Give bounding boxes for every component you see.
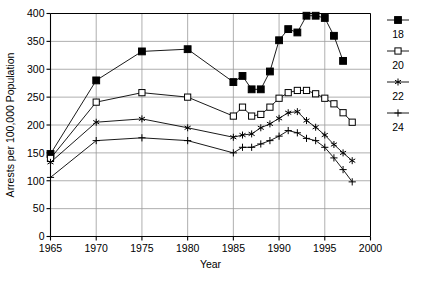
open-square-icon <box>285 90 291 96</box>
data-point-filled-square-icon <box>395 17 402 24</box>
data-point-plus-icon <box>138 134 145 141</box>
filled-square-icon <box>184 46 191 53</box>
open-square-icon <box>139 90 145 96</box>
data-point-open-square-icon <box>276 95 282 101</box>
y-tick-label: 0 <box>39 230 45 242</box>
filled-square-icon <box>139 48 146 55</box>
filled-square-icon <box>267 68 274 75</box>
data-point-plus-icon <box>349 178 356 185</box>
filled-square-icon <box>312 12 319 19</box>
data-point-filled-square-icon <box>139 48 146 55</box>
data-point-filled-square-icon <box>230 79 237 86</box>
data-point-open-square-icon <box>249 113 255 119</box>
filled-square-icon <box>294 29 301 36</box>
y-tick-label: 300 <box>27 63 45 75</box>
open-square-icon <box>349 119 355 125</box>
data-point-filled-square-icon <box>285 26 292 33</box>
data-point-open-square-icon <box>230 113 236 119</box>
y-axis-title: Arrests per 100,000 Population <box>4 52 16 197</box>
legend-item-20[interactable]: 20 <box>387 48 409 71</box>
x-tick-label: 1970 <box>85 242 109 254</box>
series-group <box>47 12 356 185</box>
open-square-icon <box>395 48 401 54</box>
legend-label: 24 <box>392 121 404 133</box>
open-square-icon <box>249 113 255 119</box>
data-point-filled-square-icon <box>340 57 347 64</box>
data-point-plus-icon <box>230 149 237 156</box>
y-tick-label: 50 <box>33 202 45 214</box>
legend-item-24[interactable]: 24 <box>387 109 409 133</box>
y-tick-label: 200 <box>27 119 45 131</box>
y-tick-label: 100 <box>27 175 45 187</box>
legend-label: 22 <box>392 90 404 102</box>
filled-square-icon <box>303 12 310 19</box>
y-axis: 050100150200250300350400 <box>27 7 51 242</box>
x-tick-label: 1965 <box>39 242 63 254</box>
x-tick-label: 1975 <box>130 242 154 254</box>
open-square-icon <box>294 87 300 93</box>
data-point-plus-icon <box>394 109 401 116</box>
y-tick-label: 400 <box>27 7 45 19</box>
filled-square-icon <box>257 86 264 93</box>
data-point-filled-square-icon <box>239 73 246 80</box>
data-point-plus-icon <box>257 140 264 147</box>
filled-square-icon <box>285 26 292 33</box>
data-point-plus-icon <box>303 135 310 142</box>
filled-square-icon <box>340 57 347 64</box>
data-point-plus-icon <box>239 144 246 151</box>
filled-square-icon <box>93 77 100 84</box>
data-point-filled-square-icon <box>294 29 301 36</box>
data-point-open-square-icon <box>139 90 145 96</box>
data-point-open-square-icon <box>349 119 355 125</box>
data-point-asterisk-icon <box>267 120 273 127</box>
data-point-open-square-icon <box>395 48 401 54</box>
open-square-icon <box>331 101 337 107</box>
data-point-filled-square-icon <box>93 77 100 84</box>
data-point-open-square-icon <box>93 99 99 105</box>
legend-item-18[interactable]: 18 <box>387 17 409 40</box>
x-tick-label: 2000 <box>359 242 383 254</box>
chart-figure: 0501001502002503003504001965197019751980… <box>0 0 434 285</box>
open-square-icon <box>93 99 99 105</box>
data-point-open-square-icon <box>239 104 245 110</box>
data-point-open-square-icon <box>331 101 337 107</box>
open-square-icon <box>267 104 273 110</box>
arrests-line-chart: 0501001502002503003504001965197019751980… <box>0 0 434 285</box>
legend-item-22[interactable]: 22 <box>387 79 409 103</box>
data-point-plus-icon <box>312 137 319 144</box>
y-tick-label: 250 <box>27 91 45 103</box>
data-point-plus-icon <box>285 127 292 134</box>
data-point-plus-icon <box>184 137 191 144</box>
data-point-filled-square-icon <box>276 37 283 44</box>
data-point-filled-square-icon <box>248 86 255 93</box>
data-point-open-square-icon <box>294 87 300 93</box>
grid-lines <box>51 14 371 237</box>
filled-square-icon <box>239 73 246 80</box>
series-22 <box>47 108 355 166</box>
open-square-icon <box>322 95 328 101</box>
filled-square-icon <box>331 32 338 39</box>
filled-square-icon <box>230 79 237 86</box>
data-point-open-square-icon <box>340 110 346 116</box>
filled-square-icon <box>321 15 328 22</box>
data-point-plus-icon <box>294 129 301 136</box>
filled-square-icon <box>395 17 402 24</box>
legend: 18202224 <box>387 17 409 133</box>
series-24 <box>47 127 356 185</box>
open-square-icon <box>185 94 191 100</box>
data-point-plus-icon <box>248 144 255 151</box>
data-point-filled-square-icon <box>321 15 328 22</box>
x-axis-title: Year <box>200 258 222 270</box>
open-square-icon <box>258 111 264 117</box>
data-point-open-square-icon <box>285 90 291 96</box>
data-point-plus-icon <box>275 133 282 140</box>
data-point-filled-square-icon <box>257 86 264 93</box>
open-square-icon <box>313 91 319 97</box>
x-tick-label: 1985 <box>222 242 246 254</box>
data-point-open-square-icon <box>322 95 328 101</box>
data-point-plus-icon <box>266 137 273 144</box>
data-point-filled-square-icon <box>331 32 338 39</box>
y-tick-label: 350 <box>27 35 45 47</box>
data-point-asterisk-icon <box>276 115 282 122</box>
open-square-icon <box>276 95 282 101</box>
